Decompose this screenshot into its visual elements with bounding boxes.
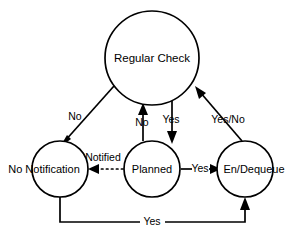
state-node-no-notification[interactable]: No Notification: [8, 141, 88, 197]
arrow-head-icon: [167, 131, 177, 144]
transition-en-dequeue-to-regular-check[interactable]: Yes/No: [195, 86, 245, 141]
state-label-en-dequeue: En/Dequeue: [223, 163, 284, 175]
state-label-no-notification: No Notification: [8, 163, 80, 175]
transition-planned-to-regular-check[interactable]: No: [135, 103, 149, 141]
transition-no-notification-to-en-dequeue[interactable]: Yes: [60, 197, 250, 227]
arrow-head-icon: [240, 197, 250, 210]
transition-regular-check-to-no-notification[interactable]: No: [60, 86, 114, 147]
state-node-en-dequeue[interactable]: En/Dequeue: [217, 141, 285, 197]
arrow-head-icon: [88, 164, 99, 174]
transition-label-notified: Notified: [85, 151, 121, 163]
transition-label-yes-bottom: Yes: [143, 215, 160, 227]
transition-label-yes-no: Yes/No: [211, 113, 245, 125]
transition-path-left: [60, 197, 140, 222]
transition-path-right: [165, 206, 245, 222]
transition-label-no-middle: No: [135, 116, 149, 128]
transition-label-yes-middle: Yes: [162, 113, 179, 125]
transition-planned-to-en-dequeue[interactable]: Yes: [181, 162, 221, 174]
state-node-planned[interactable]: Planned: [124, 141, 180, 197]
transition-regular-check-to-planned[interactable]: Yes: [162, 101, 179, 144]
state-label-regular-check: Regular Check: [114, 52, 190, 64]
transition-label-yes-right: Yes: [191, 162, 208, 174]
state-node-regular-check[interactable]: Regular Check: [105, 11, 199, 105]
transition-label-no-left: No: [68, 110, 82, 122]
state-diagram: No No Yes Yes/No Notified: [0, 0, 303, 237]
state-label-planned: Planned: [132, 163, 172, 175]
transition-planned-to-no-notification[interactable]: Notified: [85, 151, 123, 174]
state-diagram-canvas: No No Yes Yes/No Notified: [0, 0, 303, 237]
